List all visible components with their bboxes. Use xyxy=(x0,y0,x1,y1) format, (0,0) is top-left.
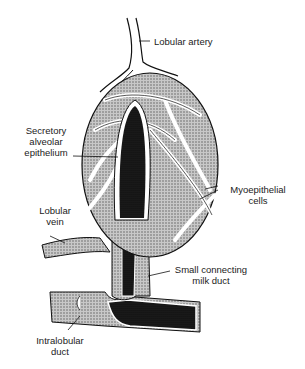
label-intralobular-duct: Intralobular duct xyxy=(32,335,88,357)
label-myoepithelial-cells: Myoepithelial cells xyxy=(222,184,294,206)
label-lobular-artery: Lobular artery xyxy=(154,36,213,47)
label-secretory-epithelium: Secretory alveolar epithelium xyxy=(18,125,74,158)
label-lobular-vein: Lobular vein xyxy=(36,205,74,227)
label-small-connecting-milk-duct: Small connecting milk duct xyxy=(170,264,252,286)
lobular-vein xyxy=(42,237,110,258)
alveolus-body xyxy=(82,73,218,257)
